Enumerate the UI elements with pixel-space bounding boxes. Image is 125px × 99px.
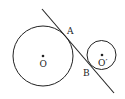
label-center-o: O [40,59,47,69]
diagram-svg: A B O O′ [0,0,125,99]
label-point-b: B [83,68,90,78]
center-dot-o-prime [101,54,104,57]
tangent-line-ab [42,9,114,93]
label-center-o-prime: O′ [98,58,107,68]
center-dot-o [42,55,45,58]
label-point-a: A [66,26,74,36]
geometry-diagram: A B O O′ [0,0,125,99]
